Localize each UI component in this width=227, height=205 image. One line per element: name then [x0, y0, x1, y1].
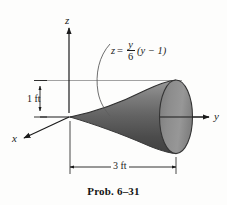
equation-fraction: y 6 — [127, 39, 135, 62]
equation-lhs: z — [111, 45, 115, 56]
dimension-label-1ft: 1 ft — [27, 94, 41, 104]
figure-prob-6-31: z y x 1 ft 3 ft z = y 6 (y − 1) Prob. 6–… — [0, 0, 227, 205]
equation-trailing-factor: (y − 1) — [137, 45, 166, 56]
x-axis-label: x — [12, 133, 17, 144]
dimension-label-3ft: 3 ft — [111, 161, 129, 171]
equation-leader-line — [97, 44, 110, 116]
equation-fraction-numerator: y — [127, 39, 134, 50]
x-axis — [24, 117, 69, 138]
z-axis-label: z — [65, 15, 69, 26]
y-axis-label: y — [214, 111, 219, 122]
equation-equals-sign: = — [117, 45, 123, 56]
equation-fraction-denominator: 6 — [127, 51, 134, 62]
surface-equation: z = y 6 (y − 1) — [111, 39, 166, 62]
figure-caption: Prob. 6–31 — [0, 185, 227, 197]
